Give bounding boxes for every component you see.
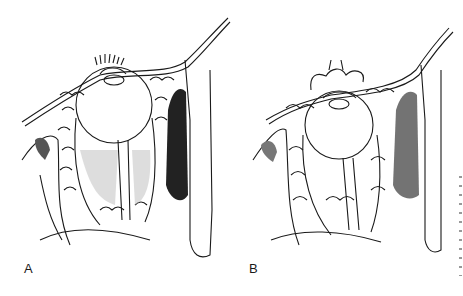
panel-label-b: B (249, 261, 258, 276)
panel-b: B (231, 0, 462, 296)
panel-a: A (0, 0, 231, 296)
panel-label-a: A (24, 261, 33, 276)
orbit-illustration-b (231, 0, 462, 296)
cropped-caption-text (459, 176, 462, 276)
orbit-illustration-a (0, 0, 231, 296)
